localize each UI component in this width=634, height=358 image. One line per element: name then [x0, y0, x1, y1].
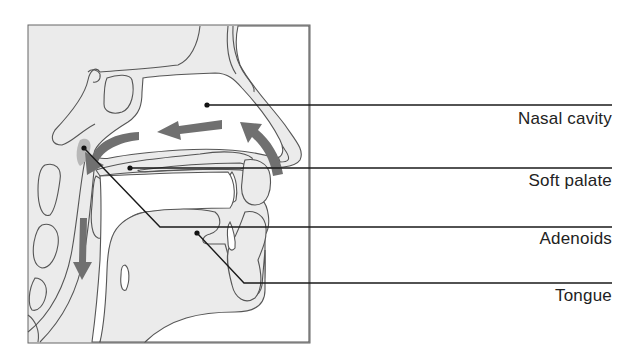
label-nasal-cavity: Nasal cavity [518, 109, 612, 129]
label-soft-palate: Soft palate [529, 171, 612, 191]
label-tongue: Tongue [555, 286, 612, 306]
label-adenoids: Adenoids [540, 229, 613, 249]
